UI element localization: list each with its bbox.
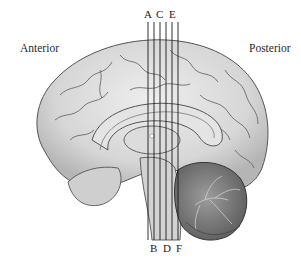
section-label-c: C <box>156 9 163 20</box>
section-label-f: F <box>176 243 182 254</box>
anterior-label: Anterior <box>20 43 59 55</box>
posterior-label: Posterior <box>249 43 291 55</box>
section-label-b: B <box>150 243 157 254</box>
section-label-a: A <box>144 9 152 20</box>
section-label-d: D <box>163 243 171 254</box>
brain-illustration <box>0 0 301 273</box>
section-label-e: E <box>169 9 176 20</box>
brain-diagram: Anterior Posterior A C E B D F <box>0 0 301 273</box>
